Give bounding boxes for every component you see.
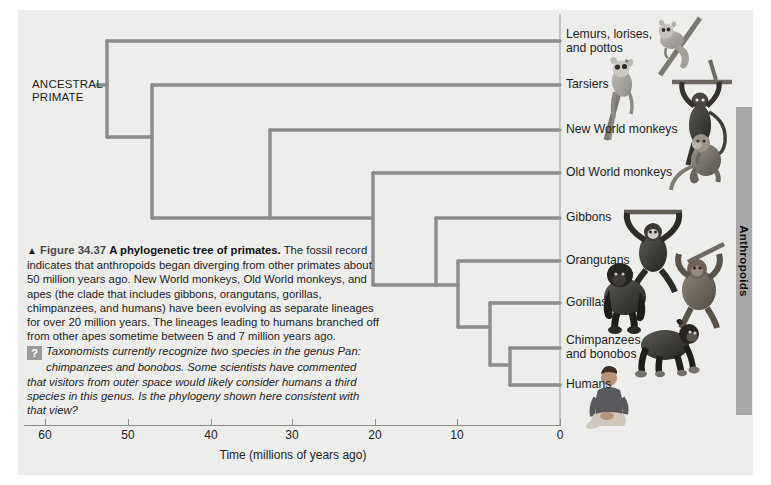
axis-tick-label-50: 50 <box>121 428 134 442</box>
question-rest: that visitors from outer space would lik… <box>27 375 379 418</box>
chimpanzee-illustration <box>635 319 700 377</box>
taxon-label-orangutans: Orangutans <box>566 254 630 268</box>
lemur-illustration <box>659 18 701 75</box>
figure-page: ANCESTRAL PRIMATE Lemurs, lorises, and p… <box>0 0 771 485</box>
question-line-2: chimpanzees and bonobos. Some scientists… <box>27 360 379 374</box>
axis-tick-label-0: 0 <box>557 428 564 442</box>
figure-caption: ▲ Figure 34.37 A phylogenetic tree of pr… <box>27 243 379 417</box>
human-illustration <box>586 366 626 429</box>
taxon-label-gibbons: Gibbons <box>566 211 611 225</box>
orangutan-illustration <box>678 244 724 328</box>
axis-tick-label-40: 40 <box>204 428 217 442</box>
axis-tick-50 <box>128 419 129 426</box>
taxon-label-gorillas: Gorillas <box>566 296 607 310</box>
axis-tick-label-20: 20 <box>368 428 381 442</box>
taxon-label-chimpanzees: Chimpanzees and bonobos <box>566 334 641 361</box>
axis-tick-40 <box>211 419 212 426</box>
axis-tick-20 <box>375 419 376 426</box>
axis-tick-10 <box>457 419 458 426</box>
axis-tick-label-60: 60 <box>38 428 51 442</box>
caption-question-block: ?Taxonomists currently recognize two spe… <box>27 344 379 417</box>
axis-title: Time (millions of years ago) <box>26 448 560 462</box>
anthropoids-group-label: Anthropoids <box>738 225 750 297</box>
question-mark-icon: ? <box>27 346 42 360</box>
caption-triangle-icon: ▲ <box>27 245 37 256</box>
taxon-label-lemurs: Lemurs, lorises, and pottos <box>566 28 652 55</box>
taxon-label-humans: Humans <box>566 378 611 392</box>
caption-body-text: The fossil record indicates that anthrop… <box>27 244 379 342</box>
taxon-label-old-world-monkeys: Old World monkeys <box>566 166 672 180</box>
caption-figure-number: Figure 34.37 <box>40 244 106 256</box>
old-world-monkey-illustration <box>671 134 721 195</box>
axis-tick-label-30: 30 <box>285 428 298 442</box>
gibbon-illustration <box>624 212 682 292</box>
question-line-1: Taxonomists currently recognize two spec… <box>46 345 361 357</box>
axis-tick-60 <box>45 419 46 426</box>
caption-figure-title: A phylogenetic tree of primates. <box>109 244 281 256</box>
anthropoids-group-bar: Anthropoids <box>736 107 752 415</box>
taxon-label-new-world-monkeys: New World monkeys <box>566 123 678 137</box>
axis-tick-label-10: 10 <box>450 428 463 442</box>
axis-tick-0 <box>560 419 561 426</box>
ancestral-primate-label: ANCESTRAL PRIMATE <box>32 78 122 104</box>
taxon-label-tarsiers: Tarsiers <box>566 78 609 92</box>
axis-tick-30 <box>292 419 293 426</box>
